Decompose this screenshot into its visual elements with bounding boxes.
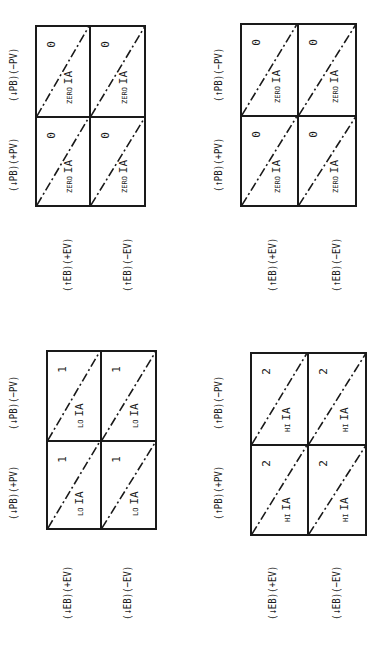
ia-label: HIIA <box>338 407 351 432</box>
ia-label: ZEROIA <box>117 71 130 104</box>
grid-cell: HIIA 2 <box>252 444 309 534</box>
diagram-top-right: (↑PB)(+PV) (↑PB)(−PV) (↑EB)(+EV) (↑EB)(−… <box>227 0 371 292</box>
column-label: (↑PB)(+PV) <box>212 138 224 192</box>
cell-value: 2 <box>317 460 330 467</box>
cell-value: 0 <box>307 39 320 46</box>
row-label: (↓EB)(−EV) <box>121 566 133 620</box>
diagram-top-left: (↓PB)(+PV) (↓PB)(−PV) (↑EB)(+EV) (↑EB)(−… <box>22 0 172 292</box>
column-label: (↑PB)(−PV) <box>212 376 224 430</box>
cell-value: 0 <box>99 41 112 48</box>
ia-label: ZEROIA <box>117 160 130 193</box>
cell-value: 0 <box>250 131 263 138</box>
cell-value: 1 <box>110 366 123 373</box>
column-label: (↑PB)(+PV) <box>212 466 224 520</box>
row-label: (↑EB)(+EV) <box>61 238 73 292</box>
cell-value: 0 <box>250 39 263 46</box>
ia-label: LOIA <box>128 491 141 516</box>
cell-value: 1 <box>56 456 69 463</box>
ia-label: HIIA <box>338 497 351 522</box>
column-label: (↓PB)(+PV) <box>7 138 19 192</box>
ia-label: HIIA <box>280 497 293 522</box>
quadrant-grid: LOIA 1 LOIA 1 LOIA 1 LOIA 1 <box>46 350 157 530</box>
ia-label: LOIA <box>73 403 86 428</box>
row-label: (↓EB)(+EV) <box>266 566 278 620</box>
ia-label: ZEROIA <box>62 160 75 193</box>
ia-label: LOIA <box>128 403 141 428</box>
row-label: (↓EB)(+EV) <box>61 566 73 620</box>
cell-value: 0 <box>99 132 112 139</box>
quadrant-grid: HIIA 2 HIIA 2 HIIA 2 HIIA 2 <box>250 352 367 536</box>
diagram-bottom-right: (↑PB)(+PV) (↑PB)(−PV) (↓EB)(+EV) (↓EB)(−… <box>227 320 371 620</box>
diagram-bottom-left: (↓PB)(+PV) (↓PB)(−PV) (↓EB)(+EV) (↓EB)(−… <box>22 320 172 620</box>
quadrant-grid: ZEROIA 0 ZEROIA 0 ZEROIA 0 ZEROIA 0 <box>35 25 146 207</box>
cell-value: 2 <box>317 368 330 375</box>
ia-label: ZEROIA <box>270 160 283 193</box>
cell-value: 0 <box>45 132 58 139</box>
grid-cell: LOIA 1 <box>48 352 102 440</box>
grid-cell: ZEROIA 0 <box>242 25 299 115</box>
grid-cell: LOIA 1 <box>48 440 102 528</box>
grid-cell: LOIA 1 <box>102 352 156 440</box>
row-label: (↓EB)(−EV) <box>330 566 342 620</box>
cell-value: 2 <box>260 460 273 467</box>
grid-cell: ZEROIA 0 <box>37 27 91 116</box>
grid-cell: ZEROIA 0 <box>242 115 299 205</box>
cell-value: 1 <box>56 366 69 373</box>
column-label: (↑PB)(−PV) <box>212 48 224 102</box>
cell-value: 1 <box>110 456 123 463</box>
cell-value: 0 <box>307 131 320 138</box>
column-label: (↓PB)(−PV) <box>7 376 19 430</box>
ia-label: ZEROIA <box>328 160 341 193</box>
quadrant-grid: ZEROIA 0 ZEROIA 0 ZEROIA 0 ZEROIA 0 <box>240 23 357 207</box>
grid-cell: HIIA 2 <box>309 354 366 444</box>
grid-cell: ZEROIA 0 <box>299 115 356 205</box>
grid-cell: LOIA 1 <box>102 440 156 528</box>
grid-cell: ZEROIA 0 <box>91 116 145 205</box>
cell-value: 2 <box>260 368 273 375</box>
ia-label: HIIA <box>280 407 293 432</box>
row-label: (↑EB)(−EV) <box>330 238 342 292</box>
grid-cell: HIIA 2 <box>309 444 366 534</box>
column-label: (↓PB)(+PV) <box>7 466 19 520</box>
grid-cell: ZEROIA 0 <box>91 27 145 116</box>
grid-cell: HIIA 2 <box>252 354 309 444</box>
row-label: (↑EB)(−EV) <box>121 238 133 292</box>
grid-cell: ZEROIA 0 <box>299 25 356 115</box>
ia-label: ZEROIA <box>328 70 341 103</box>
column-label: (↓PB)(−PV) <box>7 48 19 102</box>
cell-value: 0 <box>45 41 58 48</box>
ia-label: LOIA <box>73 491 86 516</box>
row-label: (↑EB)(+EV) <box>266 238 278 292</box>
ia-label: ZEROIA <box>62 71 75 104</box>
grid-cell: ZEROIA 0 <box>37 116 91 205</box>
ia-label: ZEROIA <box>270 70 283 103</box>
